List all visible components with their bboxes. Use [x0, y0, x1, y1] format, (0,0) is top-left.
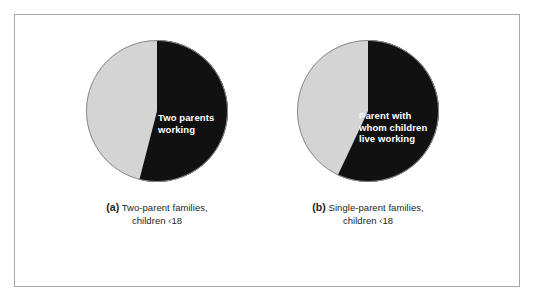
pie-chart-a-svg [86, 40, 228, 182]
pie-chart-b: Parent with whom children live working [297, 40, 439, 182]
caption-a: (a) Two-parent families, children ‹18 [39, 201, 275, 227]
caption-b-line1: Single-parent families, [329, 202, 424, 213]
caption-a-tag: (a) [106, 201, 119, 213]
figure-page: Two parents working (a) Two-parent famil… [0, 0, 536, 301]
caption-a-line1: Two-parent families, [122, 202, 208, 213]
caption-b: (b) Single-parent families, children ‹18 [250, 201, 486, 227]
caption-b-line2: children ‹18 [250, 215, 486, 228]
pie-chart-a: Two parents working [86, 40, 228, 182]
caption-a-line2: children ‹18 [39, 215, 275, 228]
chart-panel-b: Parent with whom children live working (… [250, 40, 486, 265]
caption-b-tag: (b) [312, 201, 326, 213]
chart-panel-a: Two parents working (a) Two-parent famil… [39, 40, 275, 265]
pie-chart-b-svg [297, 40, 439, 182]
